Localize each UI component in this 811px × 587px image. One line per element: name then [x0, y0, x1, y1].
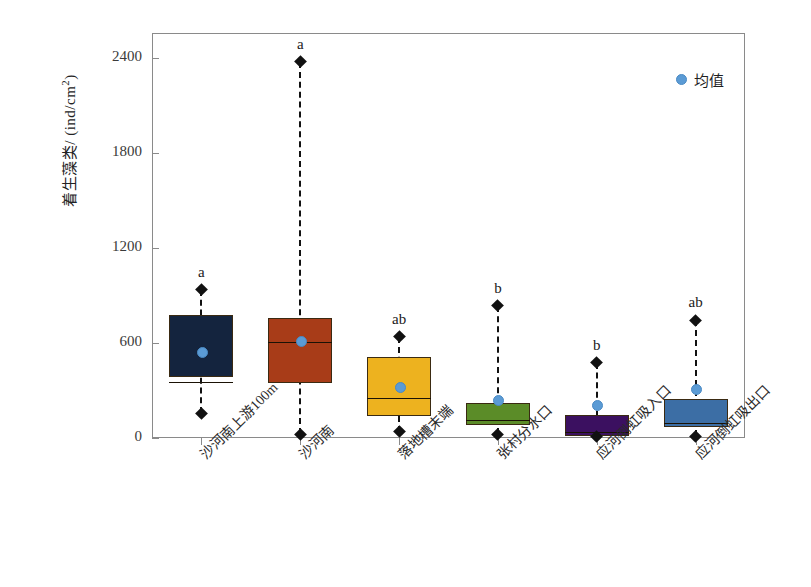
mean-marker[interactable]: [395, 382, 406, 393]
box-rect[interactable]: [268, 318, 332, 384]
y-tick-mark: [152, 58, 159, 59]
box-rect[interactable]: [169, 315, 233, 378]
y-tick-label: 1800: [90, 143, 142, 160]
mean-marker[interactable]: [592, 400, 603, 411]
significance-letter: a: [280, 36, 320, 53]
significance-letter: b: [577, 337, 617, 354]
y-tick-mark: [152, 248, 159, 249]
box-plot-figure: 着生藻类/ (ind/cm2) 0600120018002400 aaabbba…: [0, 0, 811, 587]
y-tick-mark: [152, 343, 159, 344]
y-axis-title-exponent: 2: [59, 80, 71, 86]
legend-mean-marker-icon: [676, 74, 687, 85]
y-tick-mark: [152, 438, 159, 439]
y-axis-title: 着生藻类/ (ind/cm2): [58, 11, 79, 271]
y-tick-label: 2400: [90, 48, 142, 65]
significance-letter: ab: [379, 311, 419, 328]
y-axis-title-tail: ): [62, 74, 78, 80]
median-line: [169, 382, 233, 383]
legend: 均值: [676, 69, 724, 90]
legend-label-mean: 均值: [694, 69, 724, 90]
y-tick-label: 0: [90, 428, 142, 445]
significance-letter: ab: [676, 294, 716, 311]
median-line: [367, 398, 431, 399]
y-tick-mark: [152, 153, 159, 154]
significance-letter: a: [181, 264, 221, 281]
mean-marker[interactable]: [197, 347, 208, 358]
y-axis-title-main: 着生藻类/ (ind/cm: [62, 86, 78, 207]
y-tick-label: 600: [90, 333, 142, 350]
y-tick-label: 1200: [90, 238, 142, 255]
plot-area: [152, 33, 745, 438]
significance-letter: b: [478, 280, 518, 297]
mean-marker[interactable]: [691, 384, 702, 395]
